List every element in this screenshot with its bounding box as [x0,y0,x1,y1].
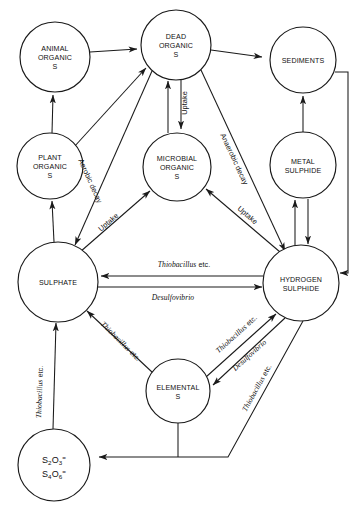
node-elemental-s: ELEMENTAL S [146,359,210,423]
node-label-hydrogen-sulphide-line1: HYDROGEN [280,276,322,284]
edge-label-thiobacillus-elemental-to-sulphate: Thiobacillus etc. [99,320,142,363]
node-label-plant-organic-s-line1: PLANT [38,154,62,162]
edge-animal-to-dead [90,49,137,52]
diagram-canvas: ANIMAL ORGANIC S DEAD ORGANIC S SEDIMENT… [0,0,361,506]
node-label-sulphate: SULPHATE [39,279,77,287]
node-sulphate: SULPHATE [18,242,98,322]
edge-label-uptake-dead-to-microbial: Uptake [180,91,189,115]
node-label-microbial-organic-s-line1: MICROBIAL [157,155,197,163]
node-label-plant-organic-s-line2: ORGANIC [33,163,67,171]
edge-sulphate-to-plant [52,201,54,242]
node-thiosulphate-tetrathionate: S2O3= S4O6= [18,429,90,501]
node-label-microbial-organic-s-line2: ORGANIC [160,164,194,172]
edge-label-thiobacillus-hs-to-sulphate: Thiobacillus etc. [158,260,210,269]
node-label-dead-organic-s-line3: S [174,51,179,59]
node-label-animal-organic-s-line3: S [53,63,58,71]
sulphur-cycle-diagram: ANIMAL ORGANIC S DEAD ORGANIC S SEDIMENT… [0,0,361,506]
node-hydrogen-sulphide: HYDROGEN SULPHIDE [263,245,339,321]
node-metal-sulphide: METAL SULPHIDE [270,132,336,198]
node-dead-organic-s: DEAD ORGANIC S [141,10,211,80]
edge-plant-to-dead [74,68,146,147]
edge-label-thiobacillus-thiosulphate-to-sulphate: Thiobacillus etc. [34,366,45,419]
edge-hydrogen-sulphide-to-microbial-uptake [206,189,280,252]
edge-label-roman-part: etc. [259,363,274,379]
node-label-plant-organic-s-line3: S [48,172,53,180]
edge-label-desulfovibrio-sulphate-to-hs: Desulfovibrio [151,293,195,302]
node-label-hydrogen-sulphide-line2: SULPHIDE [283,285,320,293]
node-label-microbial-organic-s-line3: S [175,173,180,181]
edge-label-italic-part: Thiobacillus [99,320,133,354]
edge-label-aerobic-decay: Aerobic decay [77,157,105,204]
edge-label-uptake-hydrogen-sulphide-to-microbial: Uptake [236,204,260,226]
node-circle [18,429,90,501]
edge-label-italic-part: Thiobacillus [214,323,249,356]
node-label-metal-sulphide-line2: SULPHIDE [285,167,322,175]
node-animal-organic-s: ANIMAL ORGANIC S [20,22,90,92]
edge-dead-to-sediments [211,50,262,57]
node-label-animal-organic-s-line1: ANIMAL [41,45,68,53]
node-label-elemental-s-line1: ELEMENTAL [156,384,199,392]
edge-sediments-to-hydrogen-sulphide [335,72,348,273]
edge-label-italic-part: Thiobacillus [34,379,44,418]
edge-label-uptake-sulphate-to-microbial: Uptake [96,211,120,233]
node-label-dead-organic-s-line1: DEAD [166,33,186,41]
node-label-sediments: SEDIMENTS [282,57,325,65]
node-label-metal-sulphide-line1: METAL [291,158,315,166]
edge-thiosulphate-to-sulphate [53,323,56,429]
node-label-animal-organic-s-line2: ORGANIC [38,54,72,62]
edge-plant-to-animal [52,95,53,133]
node-microbial-organic-s: MICROBIAL ORGANIC S [143,133,211,201]
edge-label-italic-part: Thiobacillus [158,260,197,269]
edge-label-anaerobic-decay: Anaerobic decay [218,132,250,187]
edge-label-roman-part: etc. [35,366,44,380]
edge-label-italic-part: Desulfovibrio [151,293,195,302]
node-plant-organic-s: PLANT ORGANIC S [17,133,83,199]
edge-label-roman-part: etc. [196,260,210,269]
node-label-elemental-s-line2: S [176,393,181,401]
node-sediments: SEDIMENTS [270,27,336,93]
node-label-dead-organic-s-line2: ORGANIC [159,42,193,50]
